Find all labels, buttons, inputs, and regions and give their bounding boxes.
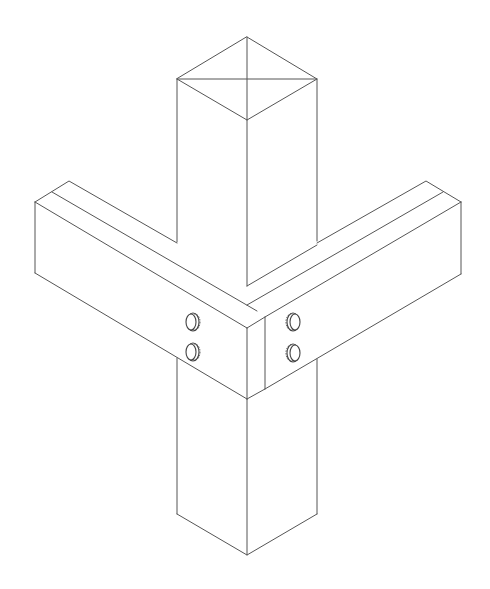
left-beam [35, 181, 257, 399]
right-beam [247, 181, 461, 389]
diagram-canvas: Isometric post and beam corner connectio… [0, 0, 490, 589]
post-upper [177, 37, 317, 286]
bolt-upper-left [186, 313, 200, 331]
bolt-upper-right [286, 313, 300, 331]
bolt-lower-right [286, 344, 300, 362]
bolt-lower-left [186, 343, 200, 361]
